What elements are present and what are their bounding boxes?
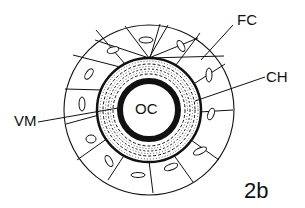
label-oc: OC	[135, 101, 158, 116]
label-fc: FC	[237, 12, 257, 27]
panel-label: 2b	[244, 180, 268, 202]
label-vm: VM	[14, 113, 37, 128]
label-ch: CH	[266, 69, 288, 84]
